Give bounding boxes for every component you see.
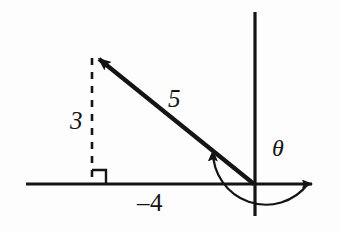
theta-arc <box>213 151 308 205</box>
math-figure: 3 5 –4 θ <box>0 0 340 233</box>
label-horizontal-leg: –4 <box>137 190 163 215</box>
label-hypotenuse: 5 <box>168 86 181 111</box>
position-vector <box>99 59 254 184</box>
label-angle-theta: θ <box>272 136 284 160</box>
label-vertical-leg: 3 <box>70 108 83 133</box>
right-angle-marker <box>92 170 106 184</box>
figure-canvas <box>0 0 340 233</box>
